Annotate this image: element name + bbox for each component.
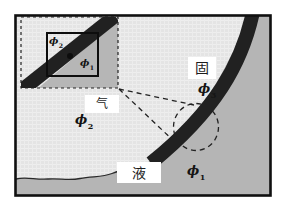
phi-solid-base: ϕ xyxy=(198,81,210,96)
figure-canvas: 固 气 液 ϕ3 ϕ2 ϕ1 ϕ2 ϕ1 xyxy=(0,0,284,209)
phi-gas-sub: 2 xyxy=(88,121,94,131)
label-solid: 固 xyxy=(188,57,216,79)
inset-phi-gas-sub: 2 xyxy=(59,42,63,49)
phi-liquid-sub: 1 xyxy=(200,172,206,182)
label-liquid-text: 液 xyxy=(132,166,146,180)
phi-solid-symbol: ϕ3 xyxy=(198,82,216,98)
inset-phi-liquid-symbol: ϕ1 xyxy=(80,58,94,70)
contact-point-dot xyxy=(67,53,73,59)
phi-solid-sub: 3 xyxy=(211,90,217,100)
label-solid-text: 固 xyxy=(195,61,209,75)
label-liquid: 液 xyxy=(117,162,161,183)
inset-phi-gas-symbol: ϕ2 xyxy=(49,36,63,48)
phi-gas-base: ϕ xyxy=(75,112,87,127)
label-gas-text: 气 xyxy=(96,98,108,110)
inset-phi-gas-base: ϕ xyxy=(49,35,58,46)
phi-liquid-base: ϕ xyxy=(187,163,199,178)
inset-phi-liquid-base: ϕ xyxy=(80,57,89,68)
phi-gas-symbol: ϕ2 xyxy=(75,113,93,129)
inset-phi-liquid-sub: 1 xyxy=(90,64,94,71)
phi-liquid-symbol: ϕ1 xyxy=(187,164,205,180)
label-gas: 气 xyxy=(85,95,119,113)
